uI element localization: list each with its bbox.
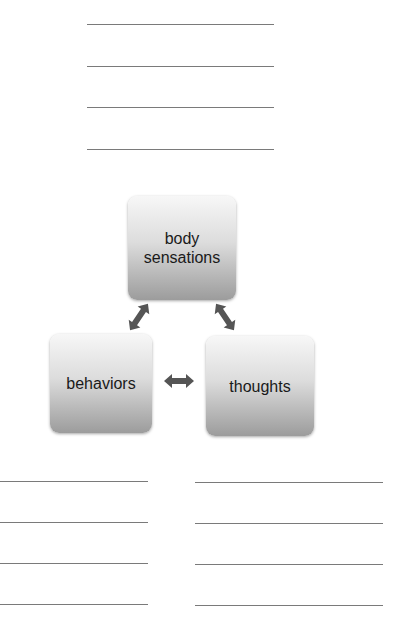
writing-line-right-3	[195, 564, 383, 565]
writing-line-top-1	[87, 24, 274, 25]
writing-line-right-2	[195, 523, 383, 524]
node-thoughts: thoughts	[206, 336, 314, 436]
writing-line-left-1	[0, 481, 148, 482]
writing-line-left-4	[0, 604, 148, 605]
node-behaviors: behaviors	[50, 334, 152, 433]
node-thoughts-label: thoughts	[229, 377, 290, 396]
writing-line-top-4	[87, 149, 274, 150]
writing-line-right-4	[195, 605, 383, 606]
writing-line-left-3	[0, 563, 148, 564]
node-body-label-line2: sensations	[144, 248, 221, 267]
writing-line-top-3	[87, 107, 274, 108]
double-arrow-icon-body-behaviors	[124, 300, 154, 334]
double-arrow-icon-body-thoughts	[210, 300, 240, 334]
node-behaviors-label: behaviors	[66, 374, 135, 393]
double-arrow-icon-behaviors-thoughts	[163, 372, 195, 390]
node-body-sensations: body sensations	[128, 196, 236, 300]
writing-line-right-1	[195, 482, 383, 483]
writing-line-top-2	[87, 66, 274, 67]
writing-line-left-2	[0, 522, 148, 523]
node-body-label-line1: body	[144, 229, 221, 248]
